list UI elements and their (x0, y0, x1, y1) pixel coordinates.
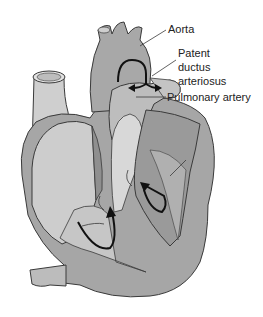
aorta-leader (140, 30, 166, 46)
label-pda-line2: ductus (178, 61, 211, 73)
label-pda-line3: arteriosus (178, 75, 227, 87)
inferior-vena-cava (30, 265, 66, 286)
aorta-branch-cap (98, 27, 110, 33)
heart-diagram: Aorta Patent ductus arteriosus Pulmonary… (0, 0, 263, 317)
pda-leader (152, 60, 176, 76)
label-aorta: Aorta (168, 23, 195, 35)
label-pda-line1: Patent (178, 47, 210, 59)
label-pulmonary-artery: Pulmonary artery (167, 91, 251, 103)
